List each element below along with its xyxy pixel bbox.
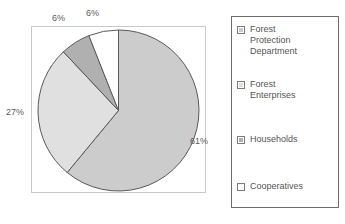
data-label-forest-protection-department: 61% <box>190 136 208 146</box>
data-label-households: 6% <box>52 13 65 23</box>
legend-swatch-households <box>237 136 245 144</box>
data-label-cooperatives: 6% <box>86 8 99 18</box>
pie-chart-figure: 6% 6% 27% 61% Forest Protection Departme… <box>0 0 345 224</box>
legend-swatch-forest-enterprises <box>237 81 245 89</box>
legend-label-households: Households <box>250 134 298 145</box>
legend-label-forest-protection-department: Forest Protection Department <box>250 24 297 57</box>
chart-legend: Forest Protection Department Forest Ente… <box>231 16 339 208</box>
legend-swatch-forest-protection-department <box>237 26 245 34</box>
pie-slices <box>38 30 199 191</box>
legend-item-cooperatives[interactable]: Cooperatives <box>237 181 337 192</box>
data-label-forest-enterprises: 27% <box>6 107 24 117</box>
legend-item-forest-protection-department[interactable]: Forest Protection Department <box>237 24 337 57</box>
legend-label-cooperatives: Cooperatives <box>250 181 303 192</box>
legend-item-forest-enterprises[interactable]: Forest Enterprises <box>237 79 337 101</box>
legend-item-households[interactable]: Households <box>237 134 337 145</box>
legend-label-forest-enterprises: Forest Enterprises <box>250 79 296 101</box>
legend-swatch-cooperatives <box>237 183 245 191</box>
